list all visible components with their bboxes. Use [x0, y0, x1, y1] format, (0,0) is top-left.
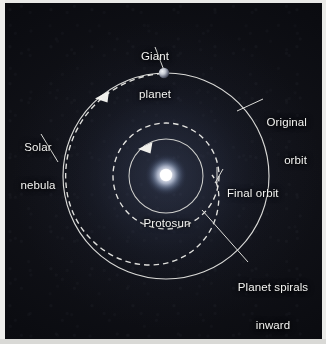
figure-root: Giant planet Original orbit Solar nebula… — [0, 0, 326, 344]
label-protosun[interactable]: Protosun — [132, 192, 202, 255]
protosun-core[interactable] — [160, 169, 172, 181]
page-edge-bottom — [0, 339, 326, 344]
page-edge-right — [322, 0, 326, 344]
label-final-orbit-line1: Final orbit — [227, 187, 317, 200]
label-planet-spirals-inward[interactable]: Planet spirals inward — [225, 256, 321, 339]
label-solar-nebula[interactable]: Solar nebula — [5, 116, 71, 217]
label-giant-planet[interactable]: Giant planet — [113, 25, 197, 126]
label-giant-planet-line2: planet — [113, 88, 197, 101]
label-solar-nebula-line1: Solar — [5, 141, 71, 154]
diagram-plate: Giant planet Original orbit Solar nebula… — [5, 3, 322, 339]
label-original-orbit-line1: Original — [202, 116, 307, 129]
label-solar-nebula-line2: nebula — [5, 179, 71, 192]
label-protosun-line1: Protosun — [132, 217, 202, 230]
label-giant-planet-line1: Giant — [113, 50, 197, 63]
label-planet-spirals-inward-line1: Planet spirals — [225, 281, 321, 294]
label-planet-spirals-inward-line2: inward — [225, 319, 321, 332]
label-final-orbit[interactable]: Final orbit — [227, 162, 317, 225]
